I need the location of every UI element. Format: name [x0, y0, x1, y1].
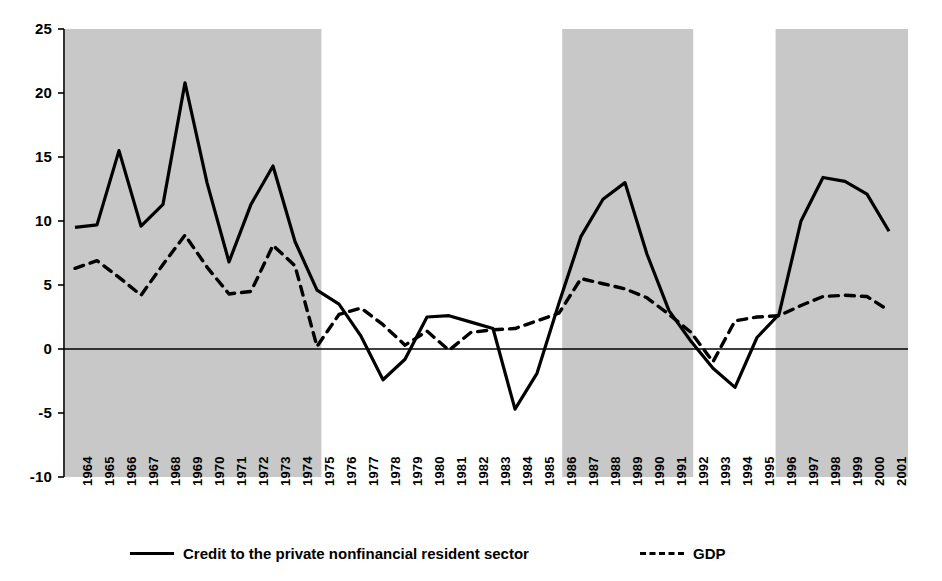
x-tick-label: 1979	[410, 456, 425, 486]
x-tick-label: 1995	[762, 456, 777, 486]
x-tick-label: 1969	[190, 456, 205, 486]
x-tick-label: 1970	[212, 456, 227, 486]
x-tick-label: 1987	[586, 456, 601, 486]
legend-entry-credit: Credit to the private nonfinancial resid…	[130, 545, 529, 562]
x-tick-label: 2001	[894, 456, 909, 486]
x-tick-label: 1965	[102, 456, 117, 486]
shaded-band-group	[65, 29, 908, 477]
legend-label-credit: Credit to the private nonfinancial resid…	[183, 545, 529, 562]
x-tick-label: 1968	[168, 456, 183, 486]
x-tick-label: 1982	[476, 456, 491, 486]
x-tick-label: 1977	[366, 456, 381, 486]
shaded-band-2	[562, 29, 693, 477]
legend-entry-gdp: GDP	[640, 545, 726, 562]
x-tick-label: 1984	[520, 456, 535, 486]
x-tick-label: 1966	[124, 456, 139, 486]
x-tick-label: 1981	[454, 456, 469, 486]
x-tick-label: 1975	[322, 456, 337, 486]
y-tick-label: 5	[0, 276, 52, 293]
x-tick-label: 1978	[388, 456, 403, 486]
y-tick-label: -5	[0, 404, 52, 421]
legend-label-gdp: GDP	[693, 545, 726, 562]
y-tick-label: 20	[0, 84, 52, 101]
x-tick-label: 1989	[630, 456, 645, 486]
legend-dashed-line-icon	[640, 552, 684, 555]
y-tick-label: 0	[0, 340, 52, 357]
shaded-band-3	[776, 29, 908, 477]
x-tick-label: 1971	[234, 456, 249, 486]
x-tick-label: 1976	[344, 456, 359, 486]
x-tick-label: 1993	[718, 456, 733, 486]
x-tick-label: 1999	[850, 456, 865, 486]
y-tick-label: 25	[0, 20, 52, 37]
x-tick-label: 1983	[498, 456, 513, 486]
y-tick-label: 15	[0, 148, 52, 165]
x-tick-label: 1973	[278, 456, 293, 486]
x-tick-label: 1974	[300, 456, 315, 486]
x-tick-label: 1997	[806, 456, 821, 486]
y-tick-label: -10	[0, 468, 52, 485]
x-tick-label: 1964	[80, 456, 95, 486]
x-tick-label: 1985	[542, 456, 557, 486]
x-tick-label: 1967	[146, 456, 161, 486]
x-tick-label: 1998	[828, 456, 843, 486]
y-tick-label: 10	[0, 212, 52, 229]
x-tick-label: 1980	[432, 456, 447, 486]
x-tick-label: 1994	[740, 456, 755, 486]
chart-legend: Credit to the private nonfinancial resid…	[0, 539, 942, 573]
chart-plot-area	[0, 0, 942, 581]
x-tick-label: 1990	[652, 456, 667, 486]
x-tick-label: 1992	[696, 456, 711, 486]
chart-container: 2520151050-5-10 196419651966196719681969…	[0, 0, 942, 581]
x-tick-label: 1988	[608, 456, 623, 486]
x-tick-label: 1996	[784, 456, 799, 486]
x-tick-label: 1986	[564, 456, 579, 486]
x-tick-label: 2000	[872, 456, 887, 486]
legend-solid-line-icon	[130, 552, 174, 555]
x-tick-label: 1972	[256, 456, 271, 486]
x-tick-label: 1991	[674, 456, 689, 486]
